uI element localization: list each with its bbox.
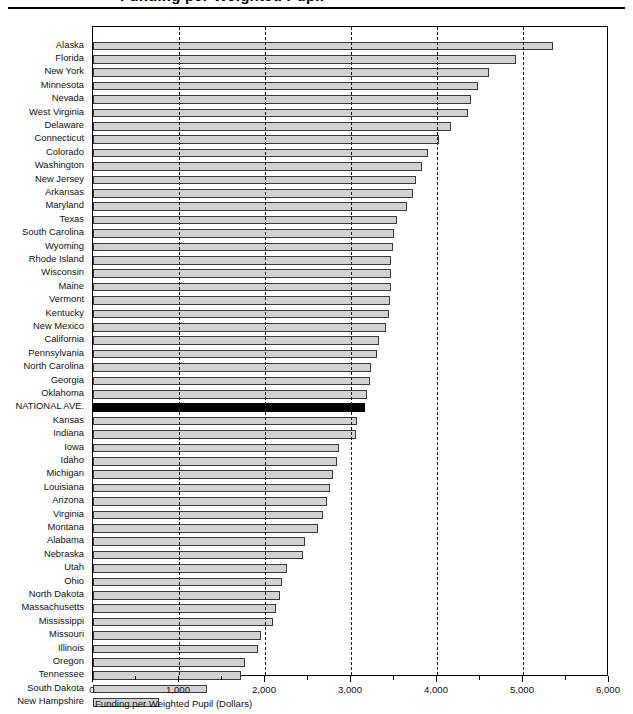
bar	[93, 484, 330, 493]
y-axis-label: Pennsylvania	[28, 346, 84, 359]
gridline	[351, 27, 352, 675]
x-axis-tick-major	[264, 676, 265, 682]
bar	[93, 189, 413, 198]
x-axis-tick-major	[608, 676, 609, 682]
bar	[93, 390, 367, 399]
x-axis-tick-label: 0	[89, 684, 94, 695]
y-axis-label: Tennessee	[39, 667, 84, 680]
bar	[93, 537, 305, 546]
y-axis-label: Massachusetts	[21, 600, 84, 613]
title-rule	[8, 7, 625, 9]
y-axis-label: Georgia	[51, 373, 84, 386]
bar	[93, 162, 422, 171]
bar	[93, 524, 318, 533]
x-axis-tick-major	[350, 676, 351, 682]
y-axis-label: Illinois	[58, 641, 84, 654]
x-axis-tick-label: 3,000	[338, 684, 362, 695]
y-axis-label: Alaska	[56, 38, 84, 51]
bar	[93, 95, 471, 104]
x-axis-tick-major	[178, 676, 179, 682]
y-axis-label: California	[44, 332, 84, 345]
bar	[93, 631, 261, 640]
bar	[93, 109, 468, 118]
y-axis-label: Washington	[35, 158, 84, 171]
bar	[93, 430, 356, 439]
y-axis-label: Montana	[48, 520, 84, 533]
bar	[93, 645, 258, 654]
x-axis-tick-minor	[393, 676, 394, 680]
y-axis-label: Nevada	[52, 91, 84, 104]
bar	[93, 497, 327, 506]
bar	[93, 618, 273, 627]
x-axis-tick-minor	[221, 676, 222, 680]
y-axis-label: Connecticut	[34, 131, 84, 144]
bar	[93, 457, 337, 466]
gridline	[523, 27, 524, 675]
bar	[93, 310, 389, 319]
x-axis-title: Funding per Weighted Pupil (Dollars)	[95, 698, 252, 709]
x-axis-tick-major	[522, 676, 523, 682]
y-axis-label: Missouri	[49, 627, 84, 640]
bar	[93, 511, 323, 520]
y-axis-label: North Dakota	[29, 587, 84, 600]
bar	[93, 269, 391, 278]
bar	[93, 336, 379, 345]
y-axis-label: Kentucky	[45, 306, 84, 319]
y-axis-label: Oklahoma	[41, 386, 84, 399]
bar-national-average	[93, 403, 365, 412]
y-axis-label: Kansas	[53, 413, 84, 426]
y-axis-label: Colorado	[46, 145, 84, 158]
y-axis-label: Florida	[55, 51, 84, 64]
bar	[93, 444, 339, 453]
bar	[93, 243, 393, 252]
y-axis-label: Texas	[60, 212, 85, 225]
y-axis-label: Louisiana	[44, 480, 84, 493]
y-axis-label: Idaho	[61, 453, 84, 466]
bar	[93, 564, 287, 573]
bar	[93, 551, 303, 560]
y-axis-label: Mississippi	[39, 614, 84, 627]
y-axis-label: Arizona	[52, 493, 84, 506]
y-axis-label: Maine	[58, 279, 84, 292]
gridline	[437, 27, 438, 675]
y-axis-label: Alabama	[47, 533, 84, 546]
x-axis-tick-minor	[479, 676, 480, 680]
y-axis-label: Virginia	[53, 507, 84, 520]
bar	[93, 68, 489, 77]
x-axis-tick-minor	[307, 676, 308, 680]
page-title: Funding per Weighted Pupil	[120, 0, 324, 4]
y-axis-label: NATIONAL AVE.	[15, 399, 84, 412]
bar	[93, 323, 386, 332]
bar	[93, 149, 428, 158]
x-axis-tick-label: 1,000	[166, 684, 190, 695]
x-axis-tick-label: 5,000	[510, 684, 534, 695]
bar	[93, 604, 276, 613]
bar	[93, 658, 245, 667]
y-axis-label: New Jersey	[35, 172, 84, 185]
y-axis-label: Maryland	[45, 198, 84, 211]
x-axis-tick-major	[92, 676, 93, 682]
x-axis-tick-minor	[565, 676, 566, 680]
bar	[93, 202, 407, 211]
bar	[93, 350, 377, 359]
bar	[93, 591, 280, 600]
bar-rows	[93, 27, 607, 675]
plot-area	[92, 26, 608, 676]
bar	[93, 176, 416, 185]
bar	[93, 256, 391, 265]
y-axis-label: Iowa	[64, 440, 84, 453]
y-axis-label: Ohio	[64, 574, 84, 587]
x-axis-tick-label: 6,000	[596, 684, 620, 695]
bar	[93, 122, 451, 131]
bar	[93, 417, 357, 426]
y-axis-label: Rhode Island	[29, 252, 84, 265]
y-axis-label: South Carolina	[22, 225, 84, 238]
y-axis-label: Wisconsin	[41, 265, 84, 278]
x-axis-tick-label: 4,000	[424, 684, 448, 695]
y-axis-label: New Hampshire	[17, 694, 84, 707]
bar	[93, 296, 390, 305]
x-axis-tick-minor	[135, 676, 136, 680]
bar	[93, 82, 478, 91]
gridline	[265, 27, 266, 675]
page-title-strip: Funding per Weighted Pupil	[0, 0, 633, 9]
